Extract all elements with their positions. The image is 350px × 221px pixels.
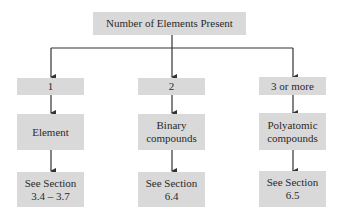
count-node-2: 2	[138, 78, 205, 95]
category-node-polyatomic-compounds: Polyatomic compounds	[259, 113, 326, 150]
reference-label-line2: 6.5	[286, 189, 300, 202]
category-node-element: Element	[17, 114, 84, 150]
root-node: Number of Elements Present	[93, 12, 246, 35]
category-label-line2: compounds	[267, 132, 318, 145]
count-label: 2	[169, 80, 175, 93]
category-label: Element	[32, 126, 69, 139]
reference-label-line1: See Section	[25, 177, 77, 190]
reference-label-line2: 6.4	[165, 190, 179, 203]
reference-label-line1: See Section	[267, 176, 319, 189]
reference-node-1: See Section 3.4 – 3.7	[17, 172, 84, 207]
count-label: 3 or more	[271, 80, 314, 93]
reference-label-line1: See Section	[146, 177, 198, 190]
category-label-line1: Binary	[157, 119, 187, 132]
reference-node-2: See Section 6.4	[138, 172, 205, 207]
count-node-3-or-more: 3 or more	[259, 77, 326, 95]
reference-node-3: See Section 6.5	[259, 171, 326, 207]
reference-label-line2: 3.4 – 3.7	[31, 190, 70, 203]
category-label-line1: Polyatomic	[267, 119, 317, 132]
count-node-1: 1	[17, 78, 84, 95]
category-label-line2: compounds	[146, 132, 197, 145]
category-node-binary-compounds: Binary compounds	[138, 114, 205, 150]
root-node-label: Number of Elements Present	[106, 17, 233, 30]
count-label: 1	[48, 80, 54, 93]
